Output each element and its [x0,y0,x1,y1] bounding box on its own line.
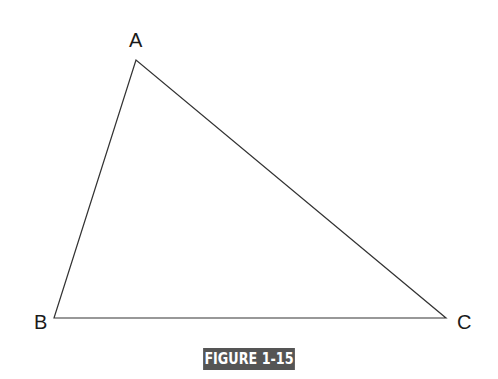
figure-caption: FIGURE 1-15 [203,348,295,370]
triangle-diagram [0,0,498,379]
vertex-label-c: C [457,312,471,332]
triangle-abc [54,60,446,318]
vertex-label-b: B [34,312,47,332]
vertex-label-a: A [129,30,142,50]
